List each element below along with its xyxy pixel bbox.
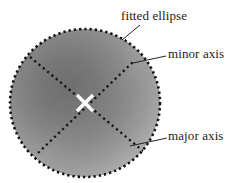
label-major-axis: major axis (168, 129, 224, 143)
ellipse-fit-diagram (0, 0, 252, 183)
label-fitted-ellipse: fitted ellipse (121, 9, 187, 23)
label-minor-axis: minor axis (168, 47, 224, 61)
